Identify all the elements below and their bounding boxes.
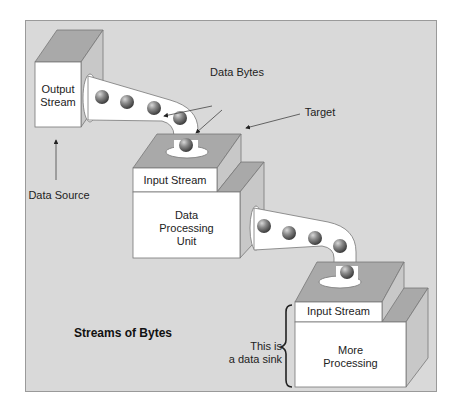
dpu-line3: Unit bbox=[133, 235, 240, 248]
diagram-title: Streams of Bytes bbox=[74, 326, 172, 340]
output-stream-line1: Output bbox=[35, 83, 81, 96]
dpu-line1: Data bbox=[133, 209, 240, 222]
sink-line2: a data sink bbox=[218, 353, 282, 366]
more-processing-label: More Processing bbox=[295, 344, 406, 370]
dpu-line2: Processing bbox=[133, 222, 240, 235]
input-stream-label-1: Input Stream bbox=[133, 174, 217, 187]
data-source-label: Data Source bbox=[24, 189, 94, 202]
processing-unit-label: Data Processing Unit bbox=[133, 209, 240, 248]
more-line1: More bbox=[295, 344, 406, 357]
target-label: Target bbox=[300, 106, 340, 119]
data-sink-label: This is a data sink bbox=[218, 340, 282, 366]
more-line2: Processing bbox=[295, 357, 406, 370]
sink-line1: This is bbox=[218, 340, 282, 353]
sink-brace bbox=[281, 305, 292, 387]
input-stream-label-2: Input Stream bbox=[295, 305, 382, 318]
output-stream-label: Output Stream bbox=[35, 83, 81, 109]
data-bytes-label: Data Bytes bbox=[202, 66, 272, 79]
output-stream-line2: Stream bbox=[35, 96, 81, 109]
